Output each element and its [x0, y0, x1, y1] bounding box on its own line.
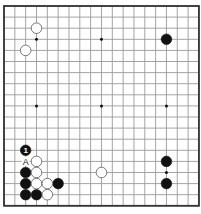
star-point	[165, 171, 168, 174]
black-stone[interactable]	[161, 156, 172, 167]
black-stone[interactable]	[161, 178, 172, 189]
black-stone[interactable]	[20, 167, 31, 178]
star-point	[35, 38, 38, 41]
white-stone[interactable]	[31, 167, 42, 178]
star-point	[100, 104, 103, 107]
white-stone[interactable]	[31, 178, 42, 189]
white-stone[interactable]	[31, 23, 42, 34]
black-stone[interactable]	[20, 189, 31, 200]
stones-layer	[20, 23, 171, 200]
go-board[interactable]: 1A	[0, 0, 201, 214]
black-stone[interactable]	[53, 178, 64, 189]
white-stone[interactable]	[96, 167, 107, 178]
labels-layer: 1A	[20, 145, 31, 167]
move-number: 1	[23, 146, 28, 155]
black-stone[interactable]	[20, 178, 31, 189]
star-point	[165, 104, 168, 107]
star-point	[35, 104, 38, 107]
point-label-A: A	[23, 157, 29, 167]
star-point	[100, 38, 103, 41]
white-stone[interactable]	[42, 178, 53, 189]
white-stone[interactable]	[42, 189, 53, 200]
numbered-move-1[interactable]: 1	[20, 145, 31, 156]
black-stone[interactable]	[31, 189, 42, 200]
white-stone[interactable]	[20, 45, 31, 56]
black-stone[interactable]	[161, 34, 172, 45]
white-stone[interactable]	[31, 156, 42, 167]
